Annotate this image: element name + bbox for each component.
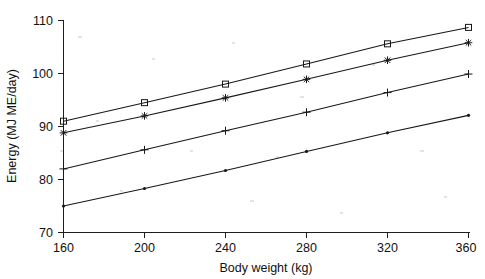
data-point-dot-4 xyxy=(386,131,389,134)
y-tick-label-110: 110 xyxy=(33,14,53,28)
x-tick-label-200: 200 xyxy=(134,241,155,255)
y-tick-label-80: 80 xyxy=(39,173,53,187)
data-point-asterisk-0 xyxy=(60,129,68,137)
x-tick-label-240: 240 xyxy=(215,241,236,255)
y-axis-title: Energy (MJ ME/day) xyxy=(5,69,19,183)
y-tick-label-100: 100 xyxy=(32,67,53,81)
x-tick-label-160: 160 xyxy=(53,241,74,255)
data-point-asterisk-5 xyxy=(465,39,473,47)
chart-figure: 110 100 90 80 70 160 200 240 280 320 360… xyxy=(0,0,485,279)
data-point-asterisk-4 xyxy=(384,56,392,64)
x-tick-label-280: 280 xyxy=(296,241,317,255)
y-tick-label-70: 70 xyxy=(39,226,53,240)
chart-background xyxy=(0,0,485,279)
data-point-asterisk-2 xyxy=(222,94,230,102)
data-point-dot-5 xyxy=(467,114,470,117)
line-chart-plot: 110 100 90 80 70 160 200 240 280 320 360… xyxy=(0,0,485,279)
data-point-dot-0 xyxy=(62,204,65,207)
data-point-dot-2 xyxy=(224,169,227,172)
x-tick-label-320: 320 xyxy=(377,241,398,255)
x-tick-label-360: 360 xyxy=(456,241,477,255)
y-tick-label-90: 90 xyxy=(39,120,53,134)
data-point-asterisk-3 xyxy=(303,76,311,84)
data-point-dot-1 xyxy=(143,187,146,190)
data-point-dot-3 xyxy=(305,150,308,153)
x-axis-title: Body weight (kg) xyxy=(219,261,312,275)
data-point-asterisk-1 xyxy=(141,112,149,120)
